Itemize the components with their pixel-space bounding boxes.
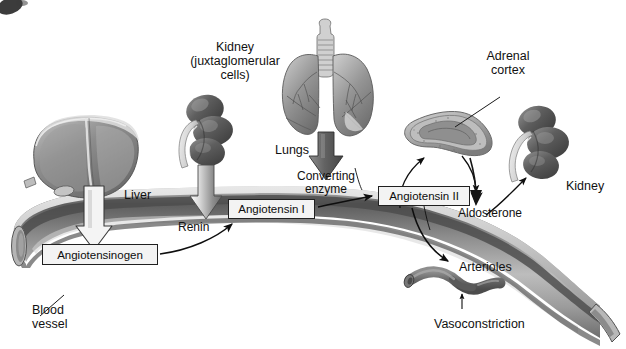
label-aldosterone: Aldosterone (458, 207, 522, 220)
label-blood-vessel: Blood vessel (32, 303, 67, 331)
arrow-aldosterone-into-vessel (470, 158, 482, 205)
label-renin: Renin (178, 221, 209, 234)
label-lungs: Lungs (275, 143, 309, 157)
kidney-juxtaglomerular-illustration (179, 91, 234, 169)
label-kidney-juxtaglomerular: Kidney (juxtaglomerular cells) (190, 40, 280, 82)
lungs-illustration (282, 19, 373, 136)
leader-converting-enzyme (355, 168, 362, 190)
arteriole-illustration (403, 270, 500, 309)
label-box-angiotensinogen-text: Angiotensinogen (57, 249, 143, 261)
figure-canvas: Angiotensinogen Angiotensin I Angiotensi… (0, 0, 626, 349)
label-adrenal-cortex: Adrenal cortex (486, 49, 529, 77)
kidney-right-illustration (509, 102, 570, 182)
adrenal-gland-illustration (405, 97, 500, 156)
label-box-angiotensin-ii: Angiotensin II (378, 186, 470, 206)
label-arterioles: Arterioles (459, 260, 512, 274)
label-box-angiotensinogen: Angiotensinogen (42, 244, 158, 265)
vessel-cut-end-left (12, 226, 27, 266)
label-box-angiotensin-ii-text: Angiotensin II (389, 190, 459, 202)
label-liver: Liver (124, 188, 151, 202)
label-box-angiotensin-i: Angiotensin I (228, 199, 315, 219)
label-vasoconstriction: Vasoconstriction (434, 317, 525, 331)
label-box-angiotensin-i-text: Angiotensin I (238, 203, 305, 215)
scan-smudge-artifact (0, 0, 28, 18)
label-kidney-right: Kidney (566, 179, 604, 193)
label-converting-enzyme: Converting enzyme (297, 170, 355, 197)
